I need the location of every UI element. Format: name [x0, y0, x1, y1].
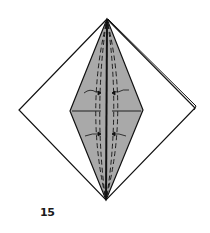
- origami-diagram: [0, 0, 210, 233]
- step-number-label: 15: [40, 206, 54, 219]
- center-fold-line: [106, 19, 107, 200]
